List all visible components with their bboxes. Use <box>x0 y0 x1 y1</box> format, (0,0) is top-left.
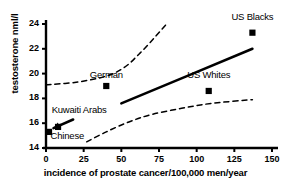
point-annotation-label: US Whites <box>187 69 230 80</box>
point-annotation-label: German <box>90 69 123 80</box>
y-tick-label: 14 <box>19 142 39 152</box>
y-axis-label: testosterone nml/l <box>9 0 20 114</box>
data-point-marker <box>103 83 109 89</box>
y-tick-label: 20 <box>19 68 39 78</box>
x-tick-label: 0 <box>34 154 58 164</box>
confidence-bands <box>46 24 252 142</box>
x-tick-label: 25 <box>72 154 96 164</box>
data-point-marker <box>206 88 212 94</box>
y-tick-label: 24 <box>19 18 39 28</box>
y-tick-label: 16 <box>19 117 39 127</box>
point-annotation-label: US Blacks <box>231 11 273 22</box>
x-tick-label: 100 <box>185 154 209 164</box>
x-tick-label: 150 <box>260 154 284 164</box>
x-tick-label: 125 <box>222 154 246 164</box>
y-tick-label: 18 <box>19 92 39 102</box>
data-point-marker <box>249 30 255 36</box>
point-annotation-label: Chinese <box>51 130 84 141</box>
x-tick-label: 50 <box>109 154 133 164</box>
prostate-testosterone-scatter-chart: testosterone nml/l incidence of prostate… <box>0 0 291 184</box>
x-tick-label: 75 <box>147 154 171 164</box>
point-annotation-label: Kuwaiti Arabs <box>52 104 107 115</box>
lower-confidence-band <box>87 100 253 142</box>
x-axis-label: incidence of prostate cancer/100,000 men… <box>0 167 291 178</box>
y-tick-label: 22 <box>19 43 39 53</box>
